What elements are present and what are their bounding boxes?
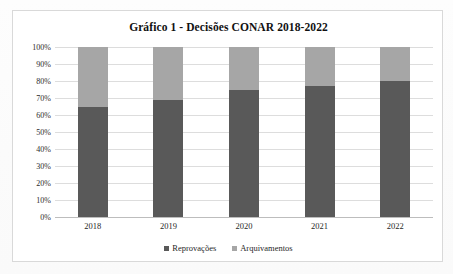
y-axis-tick: 10% [36,196,51,205]
plot-area [55,47,433,217]
bar-column[interactable] [380,47,410,217]
bar-segment[interactable] [78,47,108,107]
bar-column[interactable] [78,47,108,217]
bar-segment[interactable] [305,86,335,217]
x-axis-tick: 2020 [236,221,253,231]
chart-frame: Gráfico 1 - Decisões CONAR 2018-2022 100… [12,10,443,262]
legend-swatch-icon [164,246,169,251]
legend-label: Arquivamentos [240,243,292,253]
x-axis-category-labels: 20182019202020212022 [55,221,433,237]
bar-column[interactable] [153,47,183,217]
bar-segment[interactable] [305,47,335,86]
bar-segment[interactable] [229,47,259,90]
plot-wrapper: 100%90%80%70%60%50%40%30%20%10%0% 201820… [13,11,444,263]
chart-legend: ReprovaçõesArquivamentos [13,243,444,253]
legend-item[interactable]: Reprovações [164,243,216,253]
y-axis-tick: 40% [36,145,51,154]
y-axis-tick: 60% [36,111,51,120]
bar-segment[interactable] [78,107,108,218]
y-axis-tick: 80% [36,77,51,86]
bar-segment[interactable] [380,47,410,81]
x-axis-tick: 2019 [160,221,177,231]
bar-column[interactable] [305,47,335,217]
bars-layer [55,47,433,217]
y-axis-tick: 70% [36,94,51,103]
legend-item[interactable]: Arquivamentos [232,243,292,253]
gridline [55,217,433,218]
y-axis-tick-labels: 100%90%80%70%60%50%40%30%20%10%0% [15,47,51,217]
y-axis-tick: 0% [40,213,51,222]
y-axis-tick: 50% [36,128,51,137]
y-axis-tick: 30% [36,162,51,171]
x-axis-tick: 2022 [387,221,404,231]
y-axis-tick: 90% [36,60,51,69]
bar-segment[interactable] [153,100,183,217]
y-axis-tick: 100% [32,43,51,52]
bar-segment[interactable] [153,47,183,100]
x-axis-tick: 2018 [84,221,101,231]
bar-segment[interactable] [380,81,410,217]
legend-label: Reprovações [172,243,216,253]
bar-column[interactable] [229,47,259,217]
bar-segment[interactable] [229,90,259,218]
legend-swatch-icon [232,246,237,251]
x-axis-tick: 2021 [311,221,328,231]
y-axis-tick: 20% [36,179,51,188]
